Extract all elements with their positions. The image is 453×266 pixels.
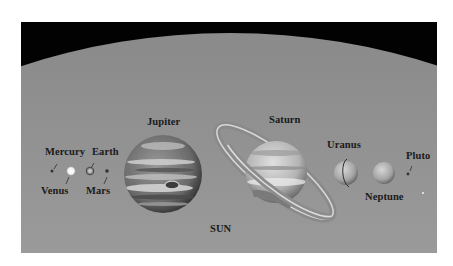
neptune-body: [373, 162, 395, 184]
label-neptune: Neptune: [365, 192, 404, 203]
solar-system-diagram: Mercury Earth Venus Mars Jupiter Saturn …: [21, 22, 437, 253]
jupiter-body: [124, 135, 202, 213]
mercury-body: [51, 170, 54, 173]
label-earth: Earth: [92, 147, 119, 158]
sun-body: [21, 33, 437, 253]
venus-body: [67, 167, 75, 175]
label-pluto: Pluto: [406, 151, 430, 162]
star-speck: [422, 192, 424, 194]
great-red-spot: [165, 181, 179, 189]
label-venus: Venus: [41, 186, 69, 197]
label-mercury: Mercury: [45, 147, 85, 158]
label-uranus: Uranus: [327, 140, 361, 151]
diagram-canvas: [21, 22, 437, 253]
label-saturn: Saturn: [269, 115, 301, 126]
label-mars: Mars: [86, 186, 110, 197]
label-sun: SUN: [210, 224, 231, 235]
mars-body: [105, 169, 109, 173]
label-jupiter: Jupiter: [147, 117, 180, 128]
